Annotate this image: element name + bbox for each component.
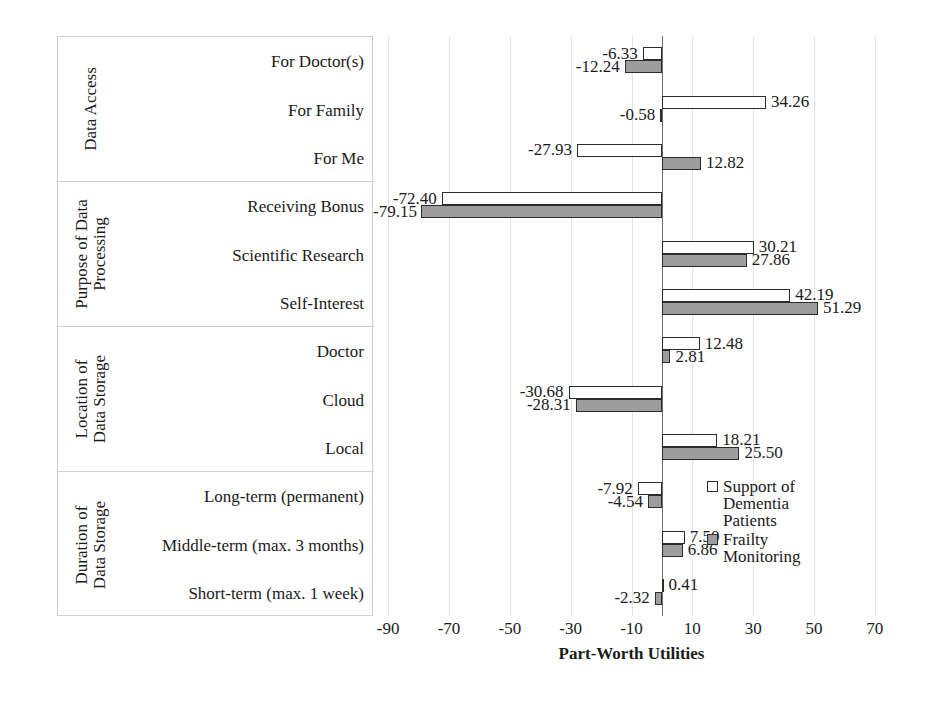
bar-support-of-dementia-patients (662, 579, 664, 592)
bar-value-label: 12.82 (706, 154, 744, 171)
legend-label-line2: Monitoring (723, 548, 827, 565)
legend-item-frailty-monitoring[interactable]: Frailty Monitoring (707, 531, 827, 565)
category-label: Middle-term (max. 3 months) (122, 537, 364, 554)
category-label: Doctor (122, 343, 364, 360)
category-label: Receiving Bonus (122, 198, 364, 215)
category-label: For Family (122, 102, 364, 119)
group-rows: Receiving BonusScientific ResearchSelf-I… (124, 182, 374, 326)
group-title-text: Purpose of DataProcessing (73, 199, 109, 309)
bar-frailty-monitoring (660, 109, 662, 122)
x-axis-ticks: -90-70-50-30-1010305070 (373, 620, 890, 646)
x-axis-tick-label: -10 (620, 620, 643, 637)
group-title-line1: Purpose of Data (73, 199, 91, 309)
category-label: Long-term (permanent) (122, 488, 364, 505)
x-axis-tick-label: -50 (499, 620, 522, 637)
bar-support-of-dementia-patients (662, 531, 685, 544)
category-label: Local (122, 440, 364, 457)
group-block: Data AccessFor Doctor(s)For FamilyFor Me (58, 37, 374, 182)
bar-support-of-dementia-patients (662, 96, 766, 109)
bar-frailty-monitoring (662, 447, 740, 460)
x-axis-tick-label: -30 (559, 620, 582, 637)
x-axis-title: Part-Worth Utilities (373, 644, 890, 664)
bar-support-of-dementia-patients (569, 386, 662, 399)
gridline (449, 36, 450, 616)
gridline (510, 36, 511, 616)
bar-frailty-monitoring (576, 399, 662, 412)
bar-value-label: 12.48 (705, 335, 743, 352)
legend-label-line2: Dementia (723, 495, 827, 512)
group-title: Data Access (58, 37, 124, 181)
bar-value-label: 51.29 (823, 299, 861, 316)
group-rows: DoctorCloudLocal (124, 327, 374, 471)
category-label: Cloud (122, 392, 364, 409)
bar-value-label: -0.58 (373, 106, 655, 123)
bar-frailty-monitoring (662, 544, 683, 557)
gridline (571, 36, 572, 616)
bar-value-label: -27.93 (373, 141, 572, 158)
zero-axis-line (662, 36, 663, 616)
bar-frailty-monitoring (662, 254, 747, 267)
hollow-square-icon (707, 481, 718, 492)
category-label-panel: Data AccessFor Doctor(s)For FamilyFor Me… (57, 36, 373, 616)
bar-value-label: -12.24 (373, 58, 620, 75)
x-axis-tick-label: 50 (805, 620, 822, 637)
group-title-line2: Data Storage (91, 355, 109, 443)
bar-support-of-dementia-patients (662, 241, 754, 254)
x-axis-tick-label: 70 (866, 620, 883, 637)
group-title-line2: Processing (91, 199, 109, 309)
x-axis-tick-label: 30 (745, 620, 762, 637)
bar-support-of-dementia-patients (643, 47, 662, 60)
group-block: Location ofData StorageDoctorCloudLocal (58, 327, 374, 472)
bar-support-of-dementia-patients (442, 192, 662, 205)
group-title-line1: Location of (73, 355, 91, 443)
group-title-line1: Data Access (82, 67, 100, 151)
bar-value-label: 2.81 (675, 348, 705, 365)
category-label: Self-Interest (122, 295, 364, 312)
group-rows: For Doctor(s)For FamilyFor Me (124, 37, 374, 181)
bar-frailty-monitoring (655, 592, 662, 605)
bar-support-of-dementia-patients (662, 289, 790, 302)
filled-square-icon (707, 534, 718, 545)
gridline (875, 36, 876, 616)
bar-value-label: -4.54 (373, 493, 643, 510)
chart-legend: Support of Dementia Patients Frailty Mon… (707, 478, 827, 567)
group-title-text: Data Access (82, 67, 100, 151)
x-axis-tick-label: -70 (438, 620, 461, 637)
bar-support-of-dementia-patients (577, 144, 662, 157)
group-title: Purpose of DataProcessing (58, 182, 124, 326)
x-axis-tick-label: 10 (684, 620, 701, 637)
bar-support-of-dementia-patients (662, 434, 717, 447)
legend-label-line3: Patients (723, 512, 827, 529)
group-title-line1: Duration of (73, 500, 91, 588)
group-title: Duration ofData Storage (58, 472, 124, 617)
category-label: For Doctor(s) (122, 53, 364, 70)
bar-frailty-monitoring (421, 205, 662, 218)
bar-frailty-monitoring (648, 495, 662, 508)
bar-value-label: 34.26 (771, 93, 809, 110)
category-label: Short-term (max. 1 week) (122, 585, 364, 602)
group-title-line2: Data Storage (91, 500, 109, 588)
bar-frailty-monitoring (662, 350, 671, 363)
bar-frailty-monitoring (662, 302, 818, 315)
bar-value-label: -28.31 (373, 396, 571, 413)
bar-value-label: 25.50 (744, 444, 782, 461)
bar-value-label: 0.41 (668, 576, 698, 593)
group-rows: Long-term (permanent)Middle-term (max. 3… (124, 472, 374, 617)
category-label: Scientific Research (122, 247, 364, 264)
group-title-text: Duration ofData Storage (73, 500, 109, 588)
group-title: Location ofData Storage (58, 327, 124, 471)
bar-value-label: -2.32 (373, 589, 650, 606)
bar-value-label: 27.86 (752, 251, 790, 268)
x-axis-tick-label: -90 (377, 620, 400, 637)
bar-value-label: -79.15 (373, 203, 416, 220)
group-block: Duration ofData StorageLong-term (perman… (58, 472, 374, 617)
bar-frailty-monitoring (625, 60, 662, 73)
group-title-text: Location ofData Storage (73, 355, 109, 443)
legend-label-line1: Support of (723, 478, 827, 495)
legend-label-line1: Frailty (723, 531, 827, 548)
legend-item-support-of-dementia-patients[interactable]: Support of Dementia Patients (707, 478, 827, 529)
category-label: For Me (122, 150, 364, 167)
gridline (388, 36, 389, 616)
group-block: Purpose of DataProcessingReceiving Bonus… (58, 182, 374, 327)
chart-figure: { "chart_data": { "type": "bar", "orient… (0, 0, 938, 709)
